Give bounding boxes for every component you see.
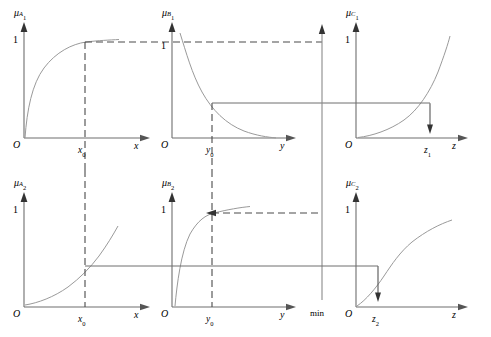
- panel-C1: [353, 22, 468, 141]
- rule1-connectors: [85, 42, 430, 104]
- panel-A2-y-arrow: [21, 192, 28, 202]
- panel-A2-x-axis-label: x: [134, 309, 138, 320]
- panel-A2-origin: O: [13, 308, 20, 319]
- panel-A1-xtick-x0: x0: [78, 139, 85, 158]
- panel-A2: [21, 170, 150, 310]
- min-operator-label: min: [310, 308, 324, 318]
- panel-C2-x-axis-label: z: [452, 309, 456, 320]
- panel-A1-ytick-1: 1: [13, 34, 18, 45]
- panel-B2-ytick-1: 1: [161, 204, 166, 215]
- panel-B1-y-arrow: [169, 22, 176, 32]
- panel-C2-y-arrow: [353, 192, 360, 202]
- panel-C1-curve: [358, 36, 450, 138]
- panel-B2: [169, 170, 296, 310]
- panel-B1-origin: O: [161, 139, 168, 150]
- panel-C2-y-axis-label: μC2: [346, 172, 359, 191]
- panel-B2-origin: O: [161, 308, 168, 319]
- panel-C1-y-axis-label: μC1: [346, 2, 359, 21]
- panel-B2-y-axis-label: μB2: [162, 172, 174, 191]
- panel-C2-origin: O: [345, 308, 352, 319]
- diagram-svg: [0, 0, 491, 337]
- panel-A1-y-axis-label: μA1: [14, 2, 26, 21]
- panel-B1-x-arrow: [286, 135, 296, 141]
- panel-A2-y-axis-label: μA2: [14, 172, 26, 191]
- panel-A2-xtick-x0: x0: [78, 308, 85, 327]
- panel-B1-y-axis-label: μB1: [162, 2, 174, 21]
- panel-B1-curve: [180, 33, 276, 138]
- panel-B2-xtick-y0: y0: [206, 308, 213, 327]
- panel-C1-x-arrow: [458, 135, 468, 141]
- panel-C2-curve: [357, 220, 452, 306]
- panel-C2-ytick-1: 1: [345, 204, 350, 215]
- panel-A2-ytick-1: 1: [13, 204, 18, 215]
- panel-C2: [353, 192, 468, 310]
- rule2-connectors: [85, 210, 378, 266]
- panel-B2-x-arrow: [286, 304, 296, 310]
- panel-C2-x-arrow: [458, 304, 468, 310]
- panel-B1-ytick-1: 1: [161, 40, 166, 51]
- panel-C1-origin: O: [345, 139, 352, 150]
- panel-C1-z1-arrowhead: [427, 125, 433, 135]
- panel-C1-ytick-1: 1: [345, 34, 350, 45]
- figure-canvas: μA1 1 O x0 x μB1 1 O y0 y μC1 1 O z1 z μ…: [0, 0, 491, 337]
- panel-C1-xtick-z1: z1: [424, 139, 431, 158]
- panel-B2-x-axis-label: y: [280, 309, 284, 320]
- panel-A1-origin: O: [13, 139, 20, 150]
- panel-A1-y-arrow: [21, 22, 28, 32]
- min-vertical-arrowhead: [319, 24, 325, 34]
- panel-B1: [169, 22, 296, 170]
- panel-B2-y-arrow: [169, 192, 176, 202]
- panel-A1-x-arrow: [140, 135, 150, 141]
- panel-A1-x-axis-label: x: [134, 140, 138, 151]
- panel-C1-x-axis-label: z: [452, 140, 456, 151]
- panel-C2-z2-arrowhead: [375, 293, 381, 303]
- panel-B1-xtick-y0: y0: [206, 139, 213, 158]
- panel-A1-curve: [25, 40, 119, 139]
- panel-A2-x-arrow: [140, 304, 150, 310]
- panel-C2-xtick-z2: z2: [372, 308, 379, 327]
- panel-B1-x-axis-label: y: [280, 140, 284, 151]
- panel-C1-y-arrow: [353, 22, 360, 32]
- min-vertical-connector: [319, 24, 325, 300]
